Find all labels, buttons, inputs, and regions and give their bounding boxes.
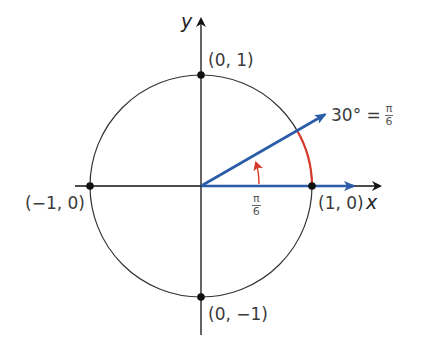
y-axis-label: y bbox=[181, 12, 192, 31]
point-right bbox=[308, 182, 316, 190]
label-point-bottom: (0, −1) bbox=[208, 306, 268, 323]
point-left bbox=[86, 182, 94, 190]
angle-label: 30° = π 6 bbox=[331, 103, 393, 127]
point-bottom bbox=[197, 293, 205, 301]
label-point-top: (0, 1) bbox=[208, 52, 254, 69]
inner-angle-label: π 6 bbox=[252, 193, 261, 217]
label-point-right: (1, 0) bbox=[318, 195, 364, 212]
angle-indicator-arrow bbox=[256, 163, 259, 184]
inner-angle-fraction: π 6 bbox=[252, 193, 261, 217]
x-axis-label: x bbox=[366, 193, 377, 212]
angle-arc bbox=[297, 131, 312, 187]
angle-degrees: 30° = bbox=[331, 107, 381, 124]
angle-fraction: π 6 bbox=[385, 103, 394, 127]
label-point-left: (−1, 0) bbox=[25, 195, 85, 212]
point-top bbox=[197, 71, 205, 79]
